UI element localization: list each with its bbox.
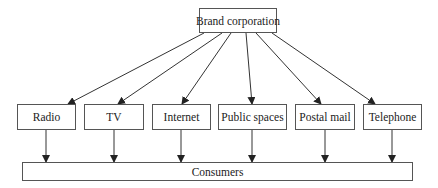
arrow-brand-postal-mail <box>256 33 321 104</box>
node-postal-mail: Postal mail <box>295 104 355 130</box>
node-public-spaces: Public spaces <box>218 104 287 130</box>
node-telephone: Telephone <box>363 104 422 130</box>
arrow-brand-telephone <box>272 33 375 104</box>
diagram-canvas: Brand corporation Radio TV Internet Publ… <box>0 0 438 188</box>
node-consumers: Consumers <box>22 162 413 181</box>
node-internet: Internet <box>152 104 211 130</box>
arrow-brand-radio <box>68 33 204 104</box>
node-brand-corporation: Brand corporation <box>199 8 277 33</box>
node-radio: Radio <box>17 104 76 130</box>
arrow-brand-public-spaces <box>246 33 252 104</box>
node-tv: TV <box>84 104 144 130</box>
